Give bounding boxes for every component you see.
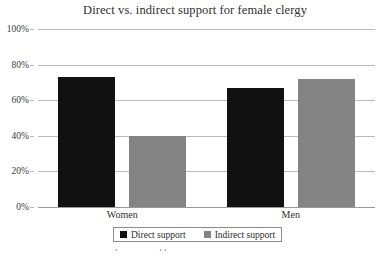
category-label-women: Women [107,209,138,220]
y-tick-label: 20% [12,166,29,176]
black-square-swatch [120,231,127,238]
y-tick-label: 100% [7,24,29,34]
legend-entry-indirect[interactable]: Indirect support [204,230,275,240]
y-tick-mark [30,100,34,101]
category-label-men: Men [282,209,300,220]
x-axis-category-labels: WomenMen [38,209,375,225]
legend-label: Indirect support [215,230,275,240]
bar-women-direct [58,77,115,207]
y-tick-label: 60% [12,95,29,105]
bar-men-direct [227,88,284,207]
y-tick-label: 40% [12,131,29,141]
y-tick-mark [30,207,34,208]
y-tick-mark [30,136,34,137]
bar-men-indirect [298,79,355,207]
legend-label: Direct support [131,230,186,240]
caption-text: Such and Politics: Response to Support [30,249,180,251]
gray-square-swatch [204,231,211,238]
y-tick-mark [30,171,34,172]
page-caption-sliver: Such and Politics: Response to Support [30,249,290,260]
y-axis-labels: 0%20%40%60%80%100% [0,29,34,207]
gridline-100% [38,29,375,30]
bar-chart: Direct vs. indirect support for female c… [0,0,390,260]
bar-women-indirect [129,136,186,207]
gridline-80% [38,65,375,66]
chart-title: Direct vs. indirect support for female c… [0,3,390,18]
y-tick-label: 0% [16,202,29,212]
legend-entry-direct[interactable]: Direct support [120,230,186,240]
y-tick-mark [30,65,34,66]
gridline-0% [38,207,375,208]
plot-area [38,29,375,207]
y-tick-label: 80% [12,60,29,70]
y-tick-mark [30,29,34,30]
chart-legend: Direct supportIndirect support [113,227,282,242]
